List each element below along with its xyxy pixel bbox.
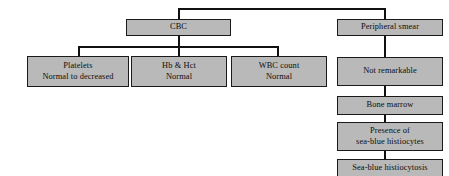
node-diagnosis-line1: Sea-blue histiocytosis <box>352 163 427 174</box>
node-hb-hct-line1: Hb & Hct <box>162 61 196 72</box>
node-not-remarkable[interactable]: Not remarkable <box>337 57 443 86</box>
node-bone-marrow-line1: Bone marrow <box>367 100 414 111</box>
node-platelets[interactable]: Platelets Normal to decreased <box>27 56 129 87</box>
node-wbc-count-line2: Normal <box>266 72 292 83</box>
node-presence-of-sea-blue-histiocytes[interactable]: Presence of sea-blue histiocytes <box>337 122 443 151</box>
edge-root-bus <box>178 8 386 10</box>
edge-cbc-to-hb-hct <box>178 46 180 56</box>
edge-cbc-to-wbc-count <box>277 46 279 56</box>
node-presence-line1: Presence of <box>370 126 410 137</box>
node-sea-blue-histiocytosis[interactable]: Sea-blue histiocytosis <box>337 159 443 176</box>
node-presence-line2: sea-blue histiocytes <box>356 137 424 148</box>
node-peripheral-smear-line1: Peripheral smear <box>361 22 419 33</box>
node-platelets-line2: Normal to decreased <box>42 72 113 83</box>
node-hb-hct-line2: Normal <box>166 72 192 83</box>
node-platelets-line1: Platelets <box>63 61 92 72</box>
node-peripheral-smear[interactable]: Peripheral smear <box>337 19 443 36</box>
node-wbc-count[interactable]: WBC count Normal <box>231 56 327 87</box>
edge-cbc-to-platelets <box>78 46 80 56</box>
node-cbc-line1: CBC <box>170 22 187 33</box>
node-hb-hct[interactable]: Hb & Hct Normal <box>131 56 227 87</box>
flowchart-canvas: CBC Peripheral smear Platelets Normal to… <box>0 0 449 176</box>
node-bone-marrow[interactable]: Bone marrow <box>337 96 443 115</box>
edge-smear-to-not-remarkable <box>384 34 386 58</box>
node-cbc[interactable]: CBC <box>126 19 231 36</box>
node-not-remarkable-line1: Not remarkable <box>363 66 417 77</box>
node-wbc-count-line1: WBC count <box>259 61 300 72</box>
